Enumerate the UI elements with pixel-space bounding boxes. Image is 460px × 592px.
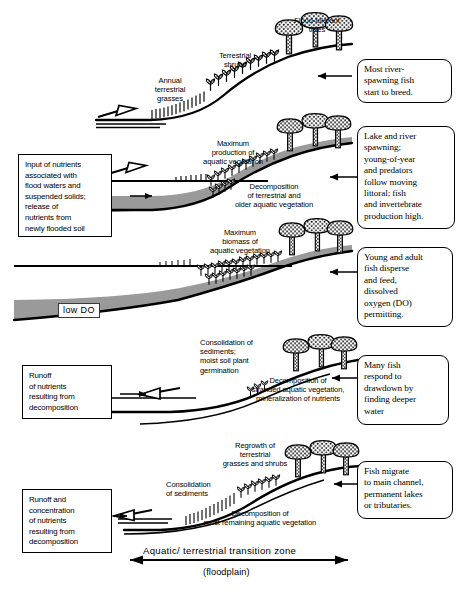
callout-lake-and-river-spawning[interactable]: Lake and river spawning; young-of-year a… <box>357 126 455 229</box>
box-input-of-nutrients[interactable]: Input of nutrients associated with flood… <box>18 154 112 237</box>
label-low-do: low DO <box>58 303 100 318</box>
box-runoff-of-nutrients[interactable]: Runoff of nutrients resulting from decom… <box>22 365 112 419</box>
aquatic-veg-p2 <box>176 174 206 182</box>
transition-zone-axis <box>130 555 348 564</box>
caption-decomposition-terrestrial-older-aquatic: Decomposition of terrestrial and older a… <box>218 182 330 210</box>
callout-most-river-spawning-fish[interactable]: Most river- spawning fish start to breed… <box>357 59 452 103</box>
callout-many-fish-respond-to-drawdown[interactable]: Many fish respond to drawdown by finding… <box>357 355 449 425</box>
caption-regrowth-terrestrial-grasses-shrubs: Regrowth of terrestrial grasses and shru… <box>205 441 305 469</box>
caption-annual-terrestrial-grasses: Annual terrestrial grasses <box>140 76 200 104</box>
caption-decomposition-most-remaining: Decomposition of most remaining aquatic … <box>180 509 340 527</box>
flow-arrow-p2 <box>108 163 146 175</box>
tree-band-p2 <box>277 114 351 151</box>
box-runoff-and-concentration-of-nutrients[interactable]: Runoff and concentration of nutrients re… <box>22 489 112 553</box>
flood-pulse-diagram: Flood-tolerant trees Terrestrial shrubs … <box>0 0 460 592</box>
caption-consolidation-sediments-germination: Consolidation of sediments; moist soil p… <box>200 338 296 375</box>
caption-maximum-biomass-aquatic-vegetation: Maximum biomass of aquatic vegetation <box>188 228 292 256</box>
callout-fish-migrate-to-main-channel[interactable]: Fish migrate to main channel, permanent … <box>357 461 453 519</box>
callout-young-and-adult-fish[interactable]: Young and adult fish disperse and feed, … <box>357 247 453 327</box>
caption-flood-tolerant-trees: Flood-tolerant trees <box>281 16 353 34</box>
caption-decomposition-stranded-vegetation: Decomposition of stranded aquatic vegeta… <box>236 376 360 404</box>
caption-maximum-production-aquatic-vegetation: Maximum production of aquatic vegetation <box>181 139 285 167</box>
caption-terrestrial-shrubs: Terrestrial shrubs <box>202 51 268 69</box>
axis-label-transition-zone: Aquatic/ terrestrial transition zone <box>143 545 296 556</box>
flow-arrow-p1 <box>98 106 136 118</box>
caption-consolidation-of-sediments: Consolidation of sediments <box>166 480 244 498</box>
axis-label-floodplain: (floodplain) <box>203 567 250 577</box>
